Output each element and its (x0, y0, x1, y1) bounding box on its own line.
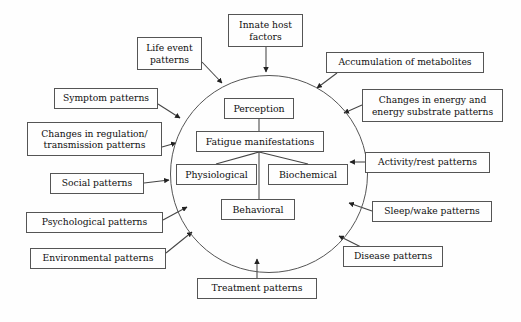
node-treatment-patterns[interactable]: Treatment patterns (197, 278, 317, 299)
node-life-event-patterns-line-2: patterns (150, 54, 189, 65)
node-environmental-patterns-label: Environmental patterns (43, 253, 154, 264)
node-physiological[interactable]: Physiological (176, 164, 257, 185)
node-changes-in-regulation[interactable]: Changes in regulation/ transmission patt… (27, 122, 162, 156)
node-biochemical[interactable]: Biochemical (268, 164, 348, 185)
edge-life-event-patterns (202, 62, 222, 83)
node-fatigue-manifestations[interactable]: Fatigue manifestations (196, 131, 324, 152)
node-life-event-patterns-line-1: Life event (146, 42, 192, 53)
diagram-canvas: Perception Fatigue manifestations Physio… (0, 0, 521, 322)
node-biochemical-label: Biochemical (279, 169, 337, 180)
node-treatment-patterns-label: Treatment patterns (211, 283, 302, 294)
node-perception-label: Perception (233, 103, 284, 114)
node-physiological-label: Physiological (185, 169, 248, 180)
node-psychological-patterns[interactable]: Psychological patterns (26, 212, 163, 233)
node-changes-in-regulation-line-1: Changes in regulation/ (41, 128, 147, 139)
edge-accumulation-of-metabolites (317, 73, 337, 88)
node-disease-patterns[interactable]: Disease patterns (343, 246, 443, 267)
node-changes-in-regulation-line-2: transmission patterns (44, 139, 146, 150)
node-symptom-patterns[interactable]: Symptom patterns (54, 88, 158, 109)
node-social-patterns[interactable]: Social patterns (50, 173, 144, 194)
node-perception[interactable]: Perception (224, 98, 294, 119)
node-fatigue-manifestations-label: Fatigue manifestations (206, 136, 315, 147)
edge-social-patterns (144, 180, 169, 183)
node-sleep-wake-patterns-label: Sleep/wake patterns (384, 206, 480, 217)
node-accumulation-of-metabolites[interactable]: Accumulation of metabolites (326, 52, 484, 73)
node-behavioral[interactable]: Behavioral (221, 199, 295, 220)
edge-symptom-patterns (158, 104, 180, 118)
node-behavioral-label: Behavioral (232, 204, 283, 215)
node-psychological-patterns-label: Psychological patterns (42, 217, 147, 228)
node-innate-host-factors-line-2: factors (249, 31, 281, 42)
node-innate-host-factors[interactable]: Innate host factors (228, 14, 303, 47)
node-accumulation-of-metabolites-label: Accumulation of metabolites (338, 57, 471, 68)
node-symptom-patterns-label: Symptom patterns (63, 93, 149, 104)
node-social-patterns-label: Social patterns (62, 178, 132, 189)
node-changes-in-energy-line-1: Changes in energy and (379, 94, 487, 105)
node-innate-host-factors-line-1: Innate host (239, 19, 292, 30)
node-life-event-patterns[interactable]: Life event patterns (137, 37, 202, 70)
node-changes-in-energy[interactable]: Changes in energy and energy substrate p… (362, 89, 503, 122)
edge-environmental-patterns (166, 232, 192, 253)
node-sleep-wake-patterns[interactable]: Sleep/wake patterns (372, 201, 492, 222)
node-activity-rest-patterns[interactable]: Activity/rest patterns (365, 152, 490, 173)
node-changes-in-energy-line-2: energy substrate patterns (372, 106, 493, 117)
node-activity-rest-patterns-label: Activity/rest patterns (378, 157, 477, 168)
node-disease-patterns-label: Disease patterns (354, 251, 432, 262)
node-environmental-patterns[interactable]: Environmental patterns (30, 248, 166, 269)
